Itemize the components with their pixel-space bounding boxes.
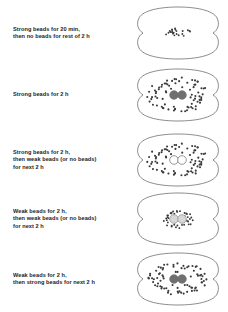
bead (175, 271, 177, 273)
bead (149, 101, 151, 103)
cell-diagram (133, 4, 223, 62)
bead (191, 290, 193, 292)
bead (195, 172, 197, 174)
bead (188, 265, 190, 267)
bead (151, 96, 153, 98)
bead (166, 149, 168, 151)
bead (154, 284, 156, 286)
nucleus-left (170, 91, 179, 100)
bead (187, 216, 189, 218)
bead (173, 32, 175, 34)
bead (167, 173, 169, 175)
bead (196, 101, 198, 103)
bead (169, 31, 171, 33)
bead (173, 174, 175, 176)
bead (193, 149, 195, 151)
bead (191, 265, 193, 267)
bead (200, 268, 202, 270)
bead (148, 277, 150, 279)
bead (197, 146, 199, 148)
bead (186, 109, 188, 111)
cell-membrane-outline (138, 7, 219, 59)
bead (203, 88, 205, 90)
cell-diagram (133, 190, 223, 248)
figure-panel: Strong beads for 20 min, then no beads f… (0, 0, 228, 312)
bead (196, 289, 198, 291)
bead (154, 155, 156, 157)
bead (158, 266, 160, 268)
bead (146, 161, 148, 163)
bead (171, 225, 173, 227)
bead (175, 144, 177, 146)
bead (197, 275, 199, 277)
bead (154, 89, 156, 91)
bead (193, 99, 195, 101)
bead (167, 292, 169, 294)
bead (174, 82, 176, 84)
bead (162, 98, 164, 100)
bead (176, 211, 178, 213)
bead (156, 169, 158, 171)
cell-illustration (133, 66, 223, 124)
bead (154, 160, 156, 162)
bead (181, 224, 183, 226)
bead (195, 105, 197, 107)
nucleus-right (178, 91, 187, 100)
bead (190, 275, 192, 277)
cell-diagram (133, 66, 223, 124)
cell-diagram (133, 131, 223, 189)
bead (190, 217, 192, 219)
bead (180, 292, 182, 294)
bead (189, 89, 191, 91)
bead (171, 146, 173, 148)
bead (173, 224, 175, 226)
bead (196, 265, 198, 267)
bead (188, 223, 190, 225)
bead (153, 278, 155, 280)
bead (171, 212, 173, 214)
bead (151, 161, 153, 163)
bead (203, 153, 205, 155)
bead (159, 272, 161, 274)
bead (197, 157, 199, 159)
bead (160, 288, 162, 290)
bead (165, 33, 167, 35)
bead (150, 98, 152, 100)
bead (161, 170, 163, 172)
bead (175, 226, 177, 228)
bead (194, 95, 196, 97)
bead (157, 283, 159, 285)
bead (184, 174, 186, 176)
bead (195, 170, 197, 172)
bead (149, 274, 151, 276)
bead (146, 96, 148, 98)
bead (205, 278, 207, 280)
bead (172, 264, 174, 266)
bead (156, 277, 158, 279)
bead (168, 150, 170, 152)
bead (150, 163, 152, 165)
bead (189, 213, 191, 215)
bead (200, 87, 202, 89)
bead (166, 219, 168, 221)
bead (161, 106, 163, 108)
bead (194, 290, 196, 292)
cell-diagram (133, 250, 223, 308)
bead (190, 96, 192, 98)
bead (168, 85, 170, 87)
bead (164, 168, 166, 170)
bead (159, 285, 161, 287)
bead (184, 110, 186, 112)
bead (178, 34, 180, 36)
bead (181, 77, 183, 79)
condition-label: Strong beads for 20 min, then no beads f… (13, 26, 131, 40)
bead (200, 96, 202, 98)
bead (191, 167, 193, 169)
bead (178, 80, 180, 82)
bead (186, 284, 188, 286)
bead (151, 85, 153, 87)
bead (161, 149, 163, 151)
bead (182, 265, 184, 267)
bead (172, 284, 174, 286)
bead (180, 267, 182, 269)
